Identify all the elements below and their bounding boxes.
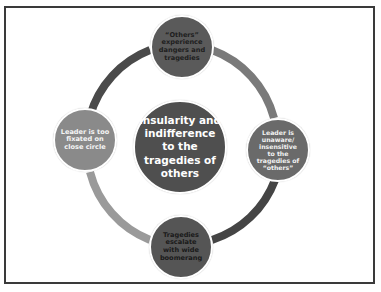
node-left: Leader is too fixated on close circle (53, 108, 117, 172)
node-bottom: Tragedies escalate with wide boomerang (149, 215, 213, 279)
arc-left-to-top (90, 50, 150, 116)
arc-bottom-to-left (90, 172, 150, 240)
node-right: Leader is unaware/ insensitive to the tr… (246, 118, 310, 182)
node-left-label: Leader is too fixated on close circle (61, 129, 110, 152)
arc-top-to-right (212, 50, 274, 118)
center-node: Insularity and indifference to the trage… (133, 100, 227, 194)
node-top-label: “Others” experience dangers and tragedie… (159, 32, 205, 62)
node-bottom-label: Tragedies escalate with wide boomerang (160, 232, 202, 262)
center-node-label: Insularity and indifference to the trage… (139, 114, 221, 180)
node-top: “Others” experience dangers and tragedie… (150, 15, 214, 79)
node-right-label: Leader is unaware/ insensitive to the tr… (257, 129, 299, 172)
arc-right-to-bottom (212, 180, 275, 240)
